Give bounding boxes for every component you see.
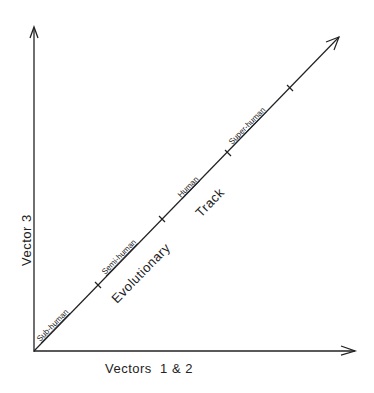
stage-label-super-human: Super-human <box>227 105 267 146</box>
stage-label-sub-human: Sub-human <box>35 307 70 343</box>
evolutionary-track-diagram: Sub-human Semi-human Human Super-human E… <box>0 0 374 393</box>
y-axis <box>30 27 38 352</box>
track-label-evolutionary: Evolutionary <box>108 240 173 306</box>
stage-labels: Sub-human Semi-human Human Super-human <box>35 105 267 343</box>
track-label-track: Track <box>192 185 227 220</box>
x-axis <box>34 346 355 355</box>
stage-label-human: Human <box>176 175 200 200</box>
y-axis-label: Vector 3 <box>19 214 34 266</box>
x-axis-label: Vectors 1 & 2 <box>105 361 193 376</box>
